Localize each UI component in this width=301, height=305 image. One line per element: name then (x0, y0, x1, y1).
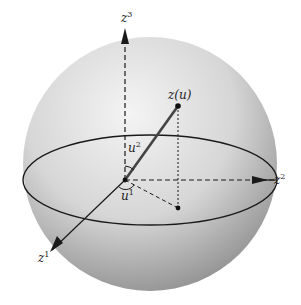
label-z1: z1 (37, 250, 49, 265)
label-z2: z2 (273, 172, 285, 187)
point-projection (176, 206, 181, 211)
origin-point (123, 178, 128, 183)
point-z-u (175, 103, 181, 109)
sphere (23, 37, 277, 291)
diagram-svg: z3 z2 z1 z(u) u2 u1 (0, 0, 301, 305)
label-z3: z3 (120, 10, 132, 25)
label-point-z-u: z(u) (167, 88, 192, 102)
sphere-diagram: z3 z2 z1 z(u) u2 u1 (0, 0, 301, 305)
arrowhead-icon (121, 28, 129, 44)
